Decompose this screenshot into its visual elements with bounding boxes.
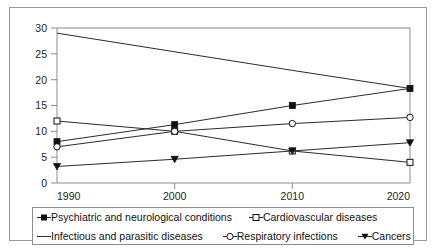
chart-series-layer [53,33,413,170]
data-point-marker [171,128,177,134]
legend-label: Respiratory infections [237,231,338,242]
filled-triangle-down-icon [358,231,372,242]
x-tick-label: 2020 [387,190,411,202]
data-point-marker [289,120,295,126]
series-line [57,117,410,146]
y-tick-label: 25 [35,48,47,60]
y-axis-ticks [51,28,57,183]
filled-square-icon [37,212,51,223]
x-tick-label: 2010 [281,190,305,202]
legend-item-respiratory[interactable]: Respiratory infections [223,231,338,242]
data-point-marker [407,159,413,165]
chart-axes [57,28,410,183]
legend-label: Infectious and parasitic diseases [51,231,203,242]
x-tick-label: 2000 [163,190,187,202]
open-square-icon [249,212,263,223]
legend-item-cardiovascular[interactable]: Cardiovascular diseases [249,212,377,223]
x-axis-labels: 1990 2000 2010 2020 [57,190,410,202]
legend-item-cancers[interactable]: Cancers [358,231,411,242]
x-axis-ticks [175,183,293,189]
legend-label: Psychiatric and neurological conditions [51,212,232,223]
figure-frame: 0 5 10 15 20 25 30 1990 2000 2010 2020 [9,7,427,241]
legend-item-infectious[interactable]: Infectious and parasitic diseases [37,231,203,242]
data-point-marker [54,118,60,124]
data-point-marker [172,122,178,128]
legend-row-1: Psychiatric and neurological conditions … [33,208,413,227]
data-point-marker [289,103,295,109]
open-circle-icon [223,231,237,242]
y-tick-label: 0 [41,177,47,189]
y-tick-label: 5 [41,151,47,163]
y-tick-label: 20 [35,74,47,86]
line-icon [37,231,51,242]
legend-label: Cancers [372,231,411,242]
data-point-marker [54,144,60,150]
legend-item-psychiatric[interactable]: Psychiatric and neurological conditions [37,212,232,223]
y-tick-label: 10 [35,125,47,137]
y-axis-labels: 0 5 10 15 20 25 30 [35,22,47,189]
y-tick-label: 30 [35,22,47,34]
series-line [57,33,410,88]
series-line [57,88,410,141]
series-line [57,143,410,167]
x-tick-label: 1990 [57,190,81,202]
chart-legend: Psychiatric and neurological conditions … [32,207,414,245]
data-point-marker [407,114,413,120]
y-tick-label: 15 [35,99,47,111]
legend-row-2: Infectious and parasitic diseases Respir… [33,227,413,246]
legend-label: Cardiovascular diseases [263,212,377,223]
